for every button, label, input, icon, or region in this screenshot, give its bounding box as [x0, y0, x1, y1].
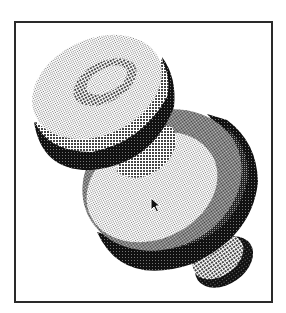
arrow-pointer-icon: [150, 197, 162, 213]
part-rendering: [16, 23, 271, 301]
render-viewport[interactable]: [14, 21, 273, 303]
